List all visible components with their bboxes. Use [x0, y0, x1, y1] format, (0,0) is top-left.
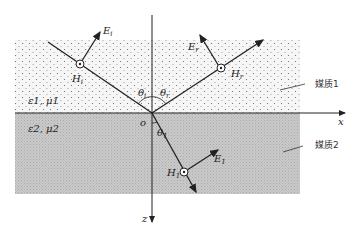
medium2-params: ε2, μ2 [28, 123, 59, 134]
medium1-params: ε1, μ1 [28, 95, 59, 106]
medium1-label: 媒质1 [315, 78, 339, 89]
z-axis-label: z [141, 213, 148, 224]
x-axis-label: x [338, 116, 344, 127]
diagram: Ei Hi θi Er Hr θr θ1 E1 H1 o x z ε1, μ1 … [0, 0, 357, 232]
incident-e-label: Ei [102, 25, 113, 38]
medium2-label: 媒质2 [315, 139, 339, 150]
origin-label: o [140, 117, 146, 128]
